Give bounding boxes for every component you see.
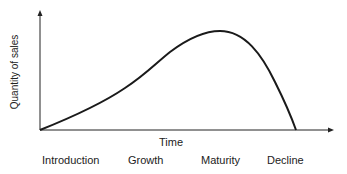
- stage-introduction: Introduction: [42, 154, 99, 166]
- stage-decline: Decline: [267, 154, 304, 166]
- y-axis: [38, 10, 43, 130]
- stage-growth: Growth: [128, 154, 163, 166]
- x-axis: [40, 128, 334, 133]
- stage-maturity: Maturity: [201, 154, 240, 166]
- y-axis-label: Quantity of sales: [9, 35, 20, 109]
- sales-curve: [40, 31, 296, 130]
- x-axis-label: Time: [159, 136, 183, 148]
- y-axis-arrow-icon: [38, 10, 43, 16]
- product-life-cycle-diagram: Quantity of sales Time Introduction Grow…: [0, 0, 347, 174]
- x-axis-arrow-icon: [328, 128, 334, 133]
